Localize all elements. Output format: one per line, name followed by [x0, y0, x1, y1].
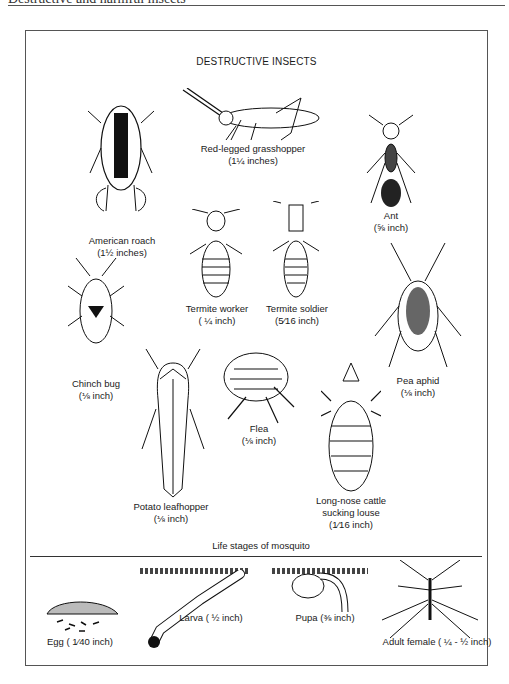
mosquito-pupa-illustration [290, 570, 360, 615]
figure-title: DESTRUCTIVE INSECTS [26, 56, 487, 67]
grasshopper-label: Red-legged grasshopper (1¼ inches) [198, 143, 308, 167]
mosquito-larva-label: Larva ( ½ inch) [176, 612, 246, 624]
page-header: Destructive and harmful insects [0, 0, 509, 8]
cattle-louse-label: Long-nose cattle sucking louse (1⁄16 inc… [296, 495, 406, 531]
flea-label: Flea (⅛ inch) [229, 423, 289, 447]
flea-illustration [216, 347, 296, 427]
cattle-louse-illustration [321, 361, 381, 496]
mosquito-egg-illustration [45, 594, 120, 634]
potato-leafhopper-illustration [138, 349, 208, 499]
termite-worker-illustration [186, 209, 246, 301]
chinch-bug-illustration [66, 256, 126, 356]
mosquito-adult-label: Adult female ( ¼ - ½ inch) [377, 636, 497, 648]
chinch-bug-label: Chinch bug (⅛ inch) [61, 378, 131, 402]
mosquito-adult-illustration [380, 560, 480, 640]
potato-leafhopper-label: Potato leafhopper (⅛ inch) [121, 501, 221, 525]
termite-soldier-illustration [271, 201, 321, 301]
mosquito-egg-label: Egg ( 1⁄40 inch) [40, 636, 120, 648]
american-roach-illustration [86, 93, 156, 213]
mosquito-pupa-label: Pupa (⅜ inch) [290, 612, 360, 624]
pea-aphid-label: Pea aphid (⅛ inch) [388, 375, 448, 399]
termite-worker-label: Termite worker ( ¼ inch) [172, 303, 262, 327]
pea-aphid-illustration [371, 241, 466, 369]
mosquito-larva-illustration [140, 570, 250, 650]
grasshopper-illustration [181, 88, 321, 143]
section-divider [30, 556, 482, 557]
ant-illustration [361, 113, 421, 213]
header-rule [8, 5, 505, 6]
mosquito-section-title: Life stages of mosquito [191, 540, 331, 552]
ant-label: Ant (⅝ inch) [371, 210, 411, 234]
termite-soldier-label: Termite soldier (5⁄16 inch) [252, 303, 342, 327]
